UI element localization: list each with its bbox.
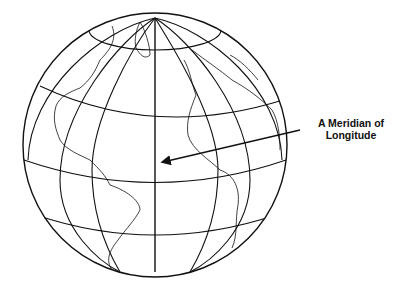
- label-line-1: A Meridian of: [296, 117, 406, 129]
- label-line-2: Longitude: [296, 129, 406, 141]
- meridian-label: A Meridian of Longitude: [296, 117, 406, 141]
- pointer-arrow: [163, 130, 300, 162]
- globe-diagram: [0, 0, 407, 291]
- globe: [23, 10, 287, 277]
